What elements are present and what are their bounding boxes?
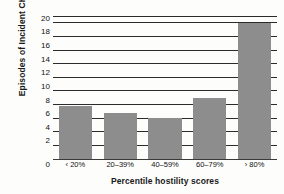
- plot-area: 02468101214161820: [53, 16, 277, 159]
- y-axis-tick-label: 12: [41, 68, 50, 77]
- bar: [238, 23, 271, 159]
- y-axis-tick-label: 8: [46, 96, 50, 105]
- y-axis-title: Episodes of Incident CHD: [17, 0, 27, 113]
- y-axis-tick-label: 14: [41, 55, 50, 64]
- plot-top-border: [53, 16, 277, 17]
- x-axis-title: Percentile hostility scores: [53, 176, 277, 186]
- x-axis-tick-label: ‹ 20%: [53, 160, 98, 170]
- y-axis-tick-label: 18: [41, 27, 50, 36]
- y-axis-tick-label: 10: [41, 82, 50, 91]
- y-axis-tick-label: 4: [46, 123, 50, 132]
- x-axis-tick-labels: ‹ 20%20–39%40–59%60–79%› 80%: [53, 160, 277, 172]
- y-axis-tick-label: 2: [46, 136, 50, 145]
- y-axis-tick-label: 6: [46, 109, 50, 118]
- x-axis-tick-label: › 80%: [232, 160, 277, 170]
- y-axis-tick-label: 16: [41, 41, 50, 50]
- x-axis-tick-label: 20–39%: [98, 160, 143, 170]
- bar-chart: Episodes of Incident CHD 024681012141618…: [0, 0, 284, 194]
- x-axis-tick-label: 60–79%: [187, 160, 232, 170]
- bar: [193, 98, 226, 159]
- x-axis-tick-label: 40–59%: [143, 160, 188, 170]
- bar: [59, 106, 92, 159]
- bar: [104, 113, 137, 159]
- bar: [148, 118, 181, 159]
- y-axis-tick-label: 20: [41, 14, 50, 23]
- y-axis-tick-label: 0: [46, 160, 50, 169]
